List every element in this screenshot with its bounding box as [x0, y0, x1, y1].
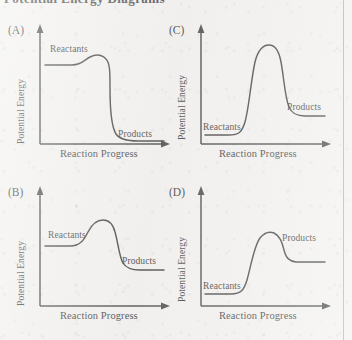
panel-d-x-axis-arrow-icon	[322, 303, 331, 310]
panel-d-y-axis-arrow-icon	[198, 186, 205, 195]
panel-c-products-label: Products	[287, 102, 321, 112]
panel-c-reactants-label: Reactants	[203, 122, 241, 132]
panel-b-x-axis-label: Reaction Progress	[60, 310, 138, 321]
panel-a-products-label: Products	[118, 129, 152, 139]
panel-b-products-label: Products	[122, 256, 156, 266]
panel-c-x-axis-label: Reaction Progress	[219, 148, 297, 159]
panel-d-tag: (D)	[169, 186, 185, 198]
panel-d-reactants-label: Reactants	[203, 281, 241, 291]
figure-heading: Potential Energy Diagrams	[4, 0, 165, 7]
panel-c: (C) Potential Energy Reaction Progress R…	[163, 10, 352, 170]
panel-a: (A) Potential Energy Reaction Progress R…	[0, 10, 176, 170]
panel-d: (D) Potential Energy Reaction Progress R…	[163, 178, 352, 338]
panel-d-x-axis-label: Reaction Progress	[219, 310, 297, 321]
panel-c-y-axis-label: Potential Energy	[177, 75, 187, 140]
panel-b-reactants-label: Reactants	[48, 230, 86, 240]
panel-c-plot	[163, 10, 352, 170]
panel-d-y-axis-label: Potential Energy	[177, 237, 187, 302]
panel-d-products-label: Products	[282, 233, 316, 243]
panel-a-y-axis-arrow-icon	[37, 24, 44, 33]
panel-b-y-axis-label: Potential Energy	[16, 241, 26, 306]
panel-c-tag: (C)	[169, 24, 184, 36]
figure-heading-strip: Potential Energy Diagrams	[0, 0, 352, 8]
figure-page: Potential Energy Diagrams (A) Potential …	[0, 0, 352, 340]
panel-b-y-axis-arrow-icon	[37, 186, 44, 195]
panel-b-tag: (B)	[8, 186, 23, 198]
panel-a-x-axis-label: Reaction Progress	[60, 148, 138, 159]
panel-b: (B) Potential Energy Reaction Progress R…	[0, 178, 176, 338]
panel-c-x-axis-arrow-icon	[322, 141, 331, 148]
page-gutter-rule	[343, 0, 344, 340]
panel-a-reactants-label: Reactants	[50, 44, 88, 54]
panel-a-plot	[0, 10, 176, 170]
panel-a-tag: (A)	[8, 24, 24, 36]
panel-c-y-axis-arrow-icon	[198, 24, 205, 33]
panel-a-y-axis-label: Potential Energy	[16, 79, 26, 144]
